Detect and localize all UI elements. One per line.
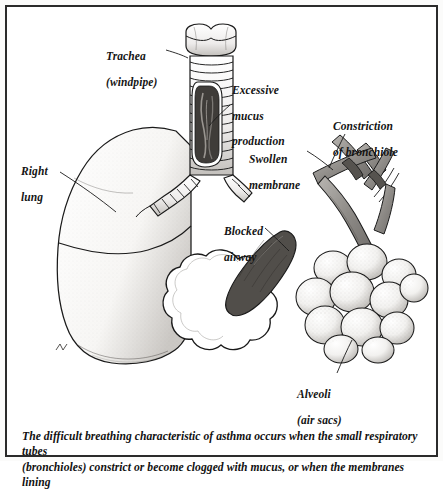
label-constriction-of-bronchiole: Constriction of bronchiole [333,107,398,171]
label-trachea-line2: (windpipe) [106,76,157,89]
label-trachea-line1: Trachea [106,50,157,63]
label-constriction-line1: Constriction [333,120,398,133]
caption-line-1: The difficult breathing characteristic o… [22,429,426,460]
label-right-lung-line1: Right [21,165,48,178]
label-constriction-line2: of bronchiole [333,146,398,159]
label-swollen-membrane: Swollen membrane [249,140,300,204]
label-trachea: Trachea (windpipe) [106,37,157,101]
label-alveoli-line1: Alveoli [297,388,342,401]
figure-caption: The difficult breathing characteristic o… [22,429,426,490]
figure-border [5,5,438,457]
label-swollen-line1: Swollen [249,153,300,166]
label-blocked-airway: Blocked airway [224,212,263,276]
label-blocked-line2: airway [224,251,263,264]
label-alveoli-line2: (air sacs) [297,414,342,427]
label-blocked-line1: Blocked [224,225,263,238]
label-mucus-line2: mucus [232,110,285,123]
caption-line-2: (bronchioles) constrict or become clogge… [22,460,426,490]
label-right-lung: Right lung [21,152,48,216]
label-right-lung-line2: lung [21,191,48,204]
label-mucus-line1: Excessive [232,84,285,97]
label-swollen-line2: membrane [249,179,300,192]
